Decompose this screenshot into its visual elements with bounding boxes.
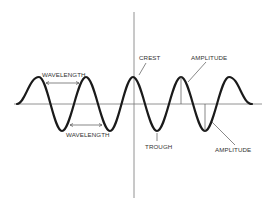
wave-diagram: WAVELENGTH WAVELENGTH CREST AMPLITUDE TR… [0, 0, 267, 211]
crest-pointer [139, 63, 146, 75]
amplitude-label-top: AMPLITUDE [191, 54, 227, 61]
wavelength-label-bottom: WAVELENGTH [66, 131, 110, 138]
wavelength-label-top: WAVELENGTH [42, 71, 86, 78]
wavelength-arrow-top [46, 82, 79, 85]
crest-label: CREST [139, 54, 161, 61]
amplitude-pointer-bottom [212, 122, 235, 145]
wavelength-arrow-bottom [70, 124, 102, 127]
amplitude-pointer-top [188, 62, 206, 82]
trough-label: TROUGH [145, 143, 172, 150]
amplitude-label-bottom: AMPLITUDE [215, 146, 251, 153]
